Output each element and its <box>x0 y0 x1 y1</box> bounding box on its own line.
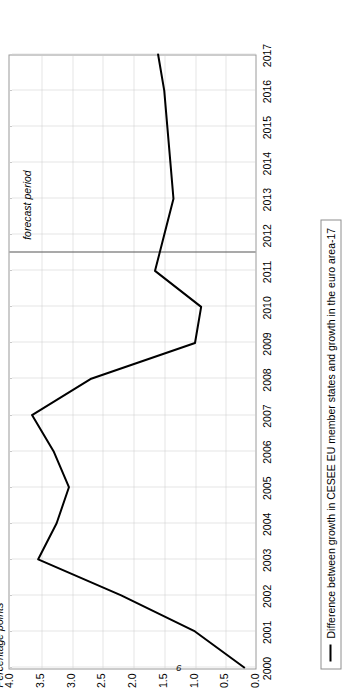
y-axis-tick-3.0: 3.0 <box>64 673 76 692</box>
y-axis-tick-1.5: 1.5 <box>156 673 168 692</box>
y-axis-tick-0.0: 0.0 <box>248 673 260 692</box>
x-axis-tick-2016: 2016 <box>260 74 272 108</box>
legend-entry-label: Difference between growth in CESEE EU me… <box>324 227 336 638</box>
x-axis-tick-2006: 2006 <box>260 435 272 469</box>
x-axis-tick-2002: 2002 <box>260 579 272 613</box>
x-axis-tick-2012: 2012 <box>260 218 272 252</box>
series-path <box>32 54 244 667</box>
x-axis-tick-2001: 2001 <box>260 615 272 649</box>
x-axis-tick-2011: 2011 <box>260 254 272 288</box>
x-axis-tick-2009: 2009 <box>260 327 272 361</box>
plot-area <box>8 54 256 669</box>
x-axis-tick-2013: 2013 <box>260 182 272 216</box>
y-axis-tick-3.5: 3.5 <box>33 673 45 692</box>
x-axis-tick-2008: 2008 <box>260 363 272 397</box>
x-axis-tick-2004: 2004 <box>260 507 272 541</box>
y-axis-tick-4.0: 4.0 <box>2 673 14 692</box>
page-number: 6 <box>176 662 181 673</box>
y-axis-tick-2.5: 2.5 <box>94 673 106 692</box>
x-axis-tick-2015: 2015 <box>260 110 272 144</box>
y-axis-tick-1.0: 1.0 <box>187 673 199 692</box>
x-axis-tick-2014: 2014 <box>260 146 272 180</box>
y-axis-tick-2.0: 2.0 <box>125 673 137 692</box>
legend: Difference between growth in CESEE EU me… <box>320 219 341 669</box>
y-axis-tick-0.5: 0.5 <box>217 673 229 692</box>
x-axis-tick-2007: 2007 <box>260 399 272 433</box>
data-series-line <box>9 53 257 668</box>
x-axis-tick-2005: 2005 <box>260 471 272 505</box>
forecast-period-label: forecast period <box>20 170 32 239</box>
x-axis-tick-2010: 2010 <box>260 290 272 324</box>
x-axis-tick-2003: 2003 <box>260 543 272 577</box>
x-axis-tick-2017: 2017 <box>260 38 272 72</box>
x-axis-tick-2000: 2000 <box>260 651 272 685</box>
legend-line-swatch-icon <box>329 644 331 661</box>
